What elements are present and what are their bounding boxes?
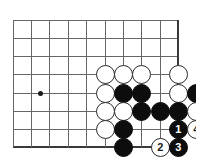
white-stone-3: [169, 65, 188, 84]
grid-line-vertical-8: [160, 20, 161, 147]
white-stone-4: [96, 84, 115, 103]
move-number-label: 2: [157, 142, 163, 153]
white-stone-10: [114, 102, 133, 121]
grid-line-vertical-3: [68, 20, 69, 147]
grid-line-vertical-1: [31, 20, 32, 147]
grid-line-horizontal-1: [13, 38, 178, 39]
grid-line-vertical-2: [49, 20, 50, 147]
move-number-label: 3: [175, 142, 181, 153]
black-stone-6: [132, 84, 151, 103]
white-stone-0: [96, 65, 115, 84]
move-stone-3: 3: [169, 138, 188, 157]
white-stone-7: [169, 84, 188, 103]
move-stone-2: 2: [151, 138, 170, 157]
move-stone-1: 1: [169, 120, 188, 139]
black-stone-13: [169, 102, 188, 121]
white-stone-15: [96, 120, 115, 139]
white-stone-14: [187, 102, 197, 121]
black-stone-5: [114, 84, 133, 103]
black-stone-19: [114, 138, 133, 157]
move-stone-4: 4: [187, 120, 197, 139]
white-stone-1: [114, 65, 133, 84]
white-stone-9: [96, 102, 115, 121]
move-number-label: 4: [193, 124, 196, 135]
black-stone-12: [151, 102, 170, 121]
grid-line-horizontal-0: [13, 20, 178, 21]
black-stone-16: [114, 120, 133, 139]
white-stone-2: [132, 65, 151, 84]
star-point-0: [38, 91, 43, 96]
grid-line-horizontal-2: [13, 56, 178, 57]
black-stone-8: [187, 84, 197, 103]
move-number-label: 1: [175, 124, 181, 135]
black-stone-11: [132, 102, 151, 121]
go-board: 1423: [0, 0, 196, 162]
grid-line-vertical-0: [13, 20, 14, 147]
grid-line-vertical-4: [86, 20, 87, 147]
